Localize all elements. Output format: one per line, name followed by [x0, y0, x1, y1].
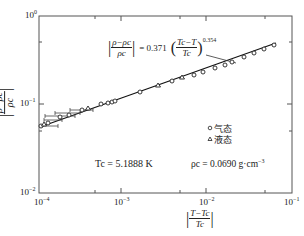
x-tick-label-1e-1: 10−1	[284, 196, 299, 207]
legend-liquid-label: 液态	[214, 133, 232, 146]
x-tick-label-1e-2: 10−2	[199, 196, 214, 207]
x-tick-label-1e-4: 10−4	[34, 196, 49, 207]
y-tick-label-1e0: 100	[25, 9, 37, 20]
rhoc-annotation: ρc = 0.0690 g·cm−3	[191, 158, 264, 169]
tc-annotation: Tc = 5.1888 K	[95, 158, 153, 169]
x-tick-label-1e-3: 10−3	[114, 196, 129, 207]
fit-equation: | ρ−ρc ρc | = 0.371 ( Tc−T Tc ) 0.354	[108, 37, 216, 58]
x-axis-label: | T−Tc Tc |	[186, 208, 214, 229]
y-axis-label: | ρ−ρc ρc |	[0, 88, 15, 117]
legend-liquid-marker	[208, 137, 212, 141]
y-tick-label-1e-1: 10−1	[20, 97, 35, 108]
legend-gas-marker	[208, 126, 212, 130]
